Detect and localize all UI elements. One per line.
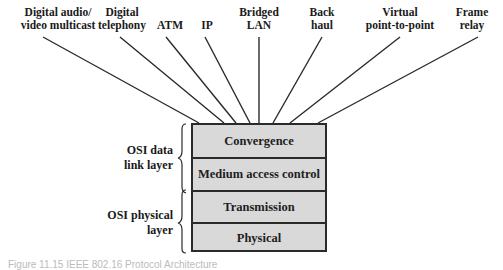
protocol-label-digital-telephony: Digital telephony	[98, 6, 146, 32]
layer-mac: Medium access control	[193, 157, 325, 190]
layer-convergence: Convergence	[193, 125, 325, 157]
protocol-label-virtual-p2p: Virtual point-to-point	[366, 6, 434, 32]
protocol-label-atm: ATM	[157, 19, 183, 32]
brace-icons	[178, 124, 186, 253]
protocol-label-frame-relay: Frame relay	[456, 6, 489, 32]
protocol-label-bridged-lan: Bridged LAN	[239, 6, 279, 32]
osi-data-link-label: OSI data link layer	[124, 143, 173, 173]
figure-caption: Figure 11.15 IEEE 802.16 Protocol Archit…	[8, 259, 217, 270]
protocol-label-digital-audio: Digital audio/ video multicast	[21, 6, 95, 32]
layer-physical: Physical	[193, 222, 325, 252]
protocol-stack: Convergence Medium access control Transm…	[191, 123, 327, 252]
layer-transmission: Transmission	[193, 190, 325, 222]
protocol-label-ip: IP	[201, 19, 213, 32]
protocol-label-back-haul: Back haul	[310, 6, 335, 32]
osi-physical-label: OSI physical layer	[107, 208, 173, 238]
